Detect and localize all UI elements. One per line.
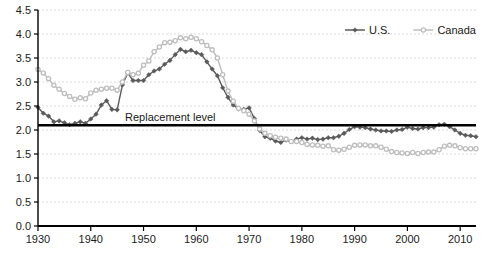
data-point	[368, 144, 372, 148]
y-tick-label: 2.5	[16, 100, 31, 112]
x-axis-ticks: 193019401950196019701980199020002010	[26, 226, 473, 245]
data-point	[316, 143, 320, 147]
data-point	[463, 147, 467, 151]
y-axis-ticks: 0.00.51.01.52.02.53.03.54.04.5	[16, 4, 38, 232]
data-point	[242, 109, 246, 113]
series-canada	[36, 35, 478, 155]
y-tick-label: 3.0	[16, 76, 31, 88]
data-point	[411, 150, 415, 154]
data-point	[389, 129, 394, 134]
data-point	[400, 151, 404, 155]
data-point	[294, 139, 298, 143]
data-point	[331, 148, 335, 152]
data-point	[189, 35, 193, 39]
x-tick-label: 1990	[342, 233, 366, 245]
data-point	[342, 147, 346, 151]
data-point	[373, 128, 378, 133]
data-point	[326, 144, 330, 148]
data-point	[421, 28, 425, 32]
data-point	[263, 131, 267, 135]
data-point	[400, 127, 405, 132]
data-point	[194, 37, 198, 41]
data-point	[305, 137, 310, 142]
data-point	[141, 63, 145, 67]
y-tick-label: 4.5	[16, 4, 31, 16]
data-point	[147, 59, 151, 63]
data-point	[57, 119, 62, 124]
data-point	[310, 136, 315, 141]
data-point	[115, 108, 120, 113]
y-tick-label: 3.5	[16, 52, 31, 64]
data-point	[110, 86, 114, 90]
data-point	[247, 112, 251, 116]
data-point	[57, 87, 61, 91]
data-point	[300, 140, 304, 144]
data-point	[347, 145, 351, 149]
data-point	[379, 145, 383, 149]
data-point	[205, 43, 209, 47]
data-point	[353, 28, 358, 33]
data-point	[437, 148, 441, 152]
data-point	[236, 106, 240, 110]
data-point	[157, 45, 161, 49]
data-point	[231, 99, 235, 103]
data-point	[78, 96, 82, 100]
data-point	[131, 73, 135, 77]
data-point	[384, 147, 388, 151]
data-point	[78, 120, 83, 125]
gridlines	[38, 10, 476, 202]
chart-canvas: 0.00.51.01.52.02.53.03.54.04.51930194019…	[0, 0, 482, 257]
data-point	[52, 83, 56, 87]
data-point	[189, 48, 194, 53]
data-point	[268, 134, 272, 138]
data-point	[178, 36, 182, 40]
data-point	[379, 129, 384, 134]
data-point	[62, 91, 66, 95]
data-point	[416, 127, 421, 132]
data-point	[353, 143, 357, 147]
data-point	[126, 70, 130, 74]
series-line	[38, 37, 476, 153]
x-tick-label: 1930	[26, 233, 50, 245]
data-point	[258, 127, 262, 131]
x-tick-label: 2000	[395, 233, 419, 245]
data-point	[136, 71, 140, 75]
data-point	[99, 87, 103, 91]
x-tick-label: 1980	[290, 233, 314, 245]
data-point	[300, 135, 305, 140]
data-point	[310, 143, 314, 147]
data-point	[432, 150, 436, 154]
data-point	[374, 144, 378, 148]
data-point	[94, 88, 98, 92]
data-point	[442, 144, 446, 148]
legend-label: Canada	[437, 24, 476, 36]
data-point	[163, 41, 167, 45]
data-point	[46, 77, 50, 81]
data-point	[405, 151, 409, 155]
data-point	[458, 146, 462, 150]
data-point	[115, 88, 119, 92]
data-point	[358, 143, 362, 147]
y-tick-label: 2.0	[16, 124, 31, 136]
annotation-replacement-level: Replacement level	[125, 111, 216, 123]
data-point	[469, 147, 473, 151]
data-point	[363, 143, 367, 147]
data-point	[73, 97, 77, 101]
data-point	[368, 127, 373, 132]
y-tick-label: 0.5	[16, 196, 31, 208]
fertility-rate-chart: 0.00.51.01.52.02.53.03.54.04.51930194019…	[0, 0, 482, 257]
x-tick-label: 2010	[448, 233, 472, 245]
legend-label: U.S.	[369, 24, 390, 36]
y-tick-label: 4.0	[16, 28, 31, 40]
y-tick-label: 1.5	[16, 148, 31, 160]
data-point	[120, 80, 124, 84]
data-point	[463, 133, 468, 138]
data-point	[389, 150, 393, 154]
data-point	[448, 143, 452, 147]
data-point	[210, 48, 214, 52]
data-point	[273, 135, 277, 139]
x-tick-label: 1950	[131, 233, 155, 245]
data-point	[215, 56, 219, 60]
data-point	[305, 142, 309, 146]
data-point	[226, 89, 230, 93]
